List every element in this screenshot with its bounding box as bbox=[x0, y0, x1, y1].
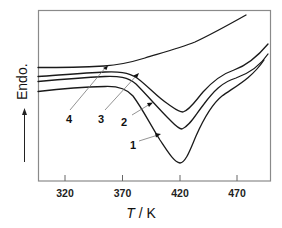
dsc-chart: 320 370 420 470 T / K Endo. 4 3 2 1 bbox=[0, 0, 282, 228]
x-ticks bbox=[65, 175, 237, 181]
x-tick-label-470: 470 bbox=[228, 187, 246, 199]
x-axis-unit: / K bbox=[135, 205, 157, 221]
up-arrow-icon bbox=[22, 108, 27, 162]
curve-label-1: 1 bbox=[130, 139, 136, 151]
plot-frame bbox=[39, 11, 271, 182]
x-axis-title: T / K bbox=[126, 205, 156, 221]
x-tick-label-370: 370 bbox=[114, 187, 132, 199]
leader-1 bbox=[139, 135, 158, 141]
leader-3 bbox=[105, 75, 137, 110]
curve-label-3: 3 bbox=[98, 113, 104, 125]
x-tick-label-320: 320 bbox=[56, 187, 74, 199]
leader-2 bbox=[132, 104, 150, 115]
curves bbox=[38, 15, 268, 163]
x-tick-label-420: 420 bbox=[171, 187, 189, 199]
curve-1 bbox=[38, 60, 264, 163]
y-axis-title: Endo. bbox=[14, 63, 30, 100]
curve-label-4: 4 bbox=[66, 113, 73, 125]
curve-label-2: 2 bbox=[121, 116, 127, 128]
arrowhead-2 bbox=[147, 103, 153, 108]
curve-4 bbox=[38, 15, 246, 68]
arrowhead-3 bbox=[134, 73, 140, 78]
